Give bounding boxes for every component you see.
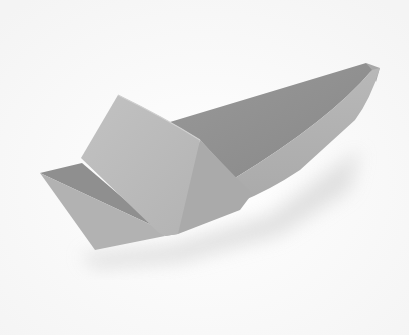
paper-boat-photo	[0, 0, 409, 335]
